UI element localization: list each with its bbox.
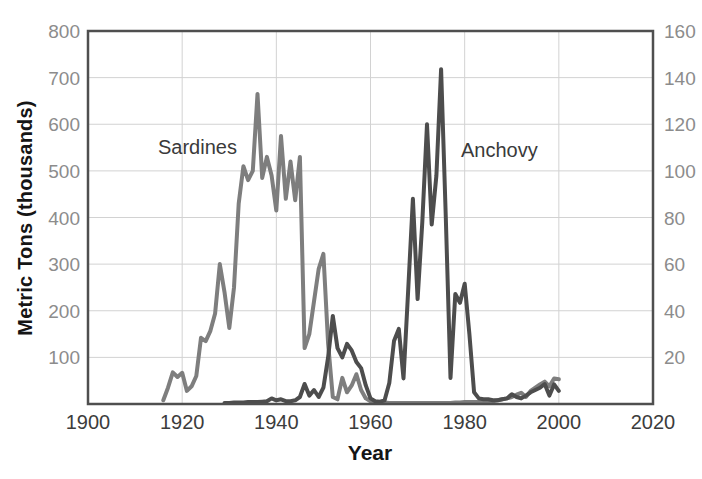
y-right-tick-100: 100 [664, 161, 696, 180]
y-right-tick-80: 80 [664, 208, 685, 227]
x-tick-1940: 1940 [254, 412, 299, 432]
y-right-tick-40: 40 [664, 301, 685, 320]
y-left-tick-400: 400 [34, 208, 80, 227]
y-right-tick-160: 160 [664, 22, 696, 41]
y-left-tick-200: 200 [34, 301, 80, 320]
sardines-series-label: Sardines [158, 136, 237, 159]
chart-canvas [0, 0, 702, 479]
y-left-tick-300: 300 [34, 255, 80, 274]
y-left-tick-100: 100 [34, 348, 80, 367]
y-left-tick-600: 600 [34, 115, 80, 134]
x-tick-1900: 1900 [66, 412, 111, 432]
y-right-tick-140: 140 [664, 68, 696, 87]
x-axis-title: Year [348, 441, 392, 465]
y-right-tick-120: 120 [664, 115, 696, 134]
x-tick-2000: 2000 [537, 412, 582, 432]
y-left-tick-800: 800 [34, 22, 80, 41]
y-left-tick-500: 500 [34, 161, 80, 180]
y-left-tick-700: 700 [34, 68, 80, 87]
anchovy-series-label: Anchovy [461, 139, 538, 162]
y-right-tick-60: 60 [664, 255, 685, 274]
anchovy-line [225, 69, 559, 403]
x-tick-1980: 1980 [442, 412, 487, 432]
x-tick-2020: 2020 [631, 412, 676, 432]
sardine-anchovy-landings-chart: Metric Tons (thousands) Year Sardines An… [0, 0, 702, 479]
y-right-tick-20: 20 [664, 348, 685, 367]
x-tick-1960: 1960 [348, 412, 393, 432]
x-tick-1920: 1920 [160, 412, 205, 432]
